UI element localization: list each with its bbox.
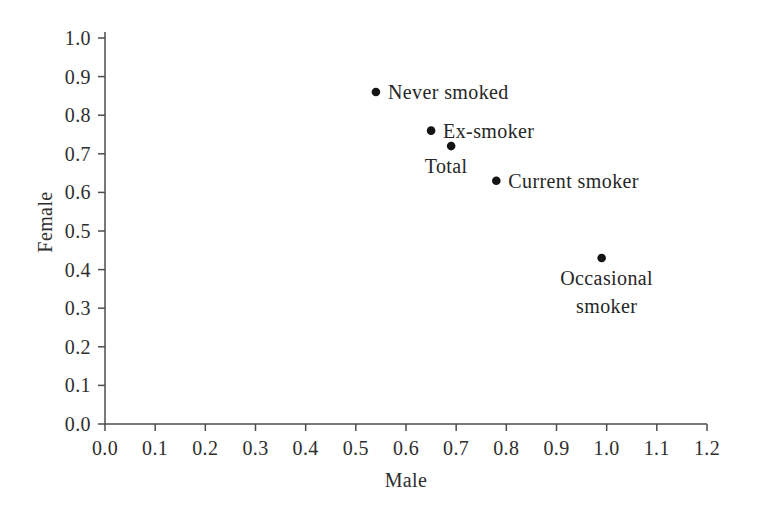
y-tick-label: 0.8 — [65, 104, 91, 126]
point-label-total: Total — [425, 155, 468, 177]
scatter-figure: 0.00.10.20.30.40.50.60.70.80.91.01.11.20… — [0, 0, 759, 512]
y-axis-title: Female — [34, 191, 56, 252]
y-tick-label: 0.9 — [65, 66, 91, 88]
y-tick-label: 0.3 — [65, 297, 91, 319]
y-tick-label: 0.2 — [65, 336, 91, 358]
point-label-current-smoker: Current smoker — [508, 170, 639, 192]
x-tick-label: 1.2 — [694, 437, 720, 459]
x-axis-title: Male — [385, 469, 428, 491]
x-tick-label: 0.6 — [393, 437, 419, 459]
x-tick-label: 0.8 — [493, 437, 519, 459]
data-point-ex-smoker — [427, 126, 436, 135]
x-tick-label: 1.0 — [594, 437, 620, 459]
x-tick-label: 0.1 — [142, 437, 168, 459]
x-tick-label: 0.5 — [343, 437, 369, 459]
point-label-occasional-smoker: Occasionalsmoker — [560, 267, 653, 317]
y-tick-label: 1.0 — [65, 27, 91, 49]
data-point-total — [447, 142, 456, 151]
x-tick-label: 0.2 — [192, 437, 218, 459]
y-tick-label: 0.1 — [65, 374, 91, 396]
x-tick-label: 1.1 — [644, 437, 670, 459]
y-tick-label: 0.4 — [65, 259, 91, 281]
y-tick-label: 0.6 — [65, 181, 91, 203]
data-point-never-smoked — [372, 88, 381, 97]
y-tick-label: 0.5 — [65, 220, 91, 242]
point-label-ex-smoker: Ex-smoker — [443, 120, 534, 142]
data-point-occasional-smoker — [597, 254, 606, 263]
scatter-plot: 0.00.10.20.30.40.50.60.70.80.91.01.11.20… — [0, 0, 759, 512]
y-tick-label: 0.0 — [65, 413, 91, 435]
x-tick-label: 0.9 — [543, 437, 569, 459]
x-tick-label: 0.3 — [242, 437, 268, 459]
data-point-current-smoker — [492, 177, 501, 186]
x-tick-label: 0.0 — [92, 437, 118, 459]
point-label-never-smoked: Never smoked — [388, 81, 509, 103]
x-tick-label: 0.7 — [443, 437, 469, 459]
y-tick-label: 0.7 — [65, 143, 91, 165]
x-tick-label: 0.4 — [293, 437, 319, 459]
